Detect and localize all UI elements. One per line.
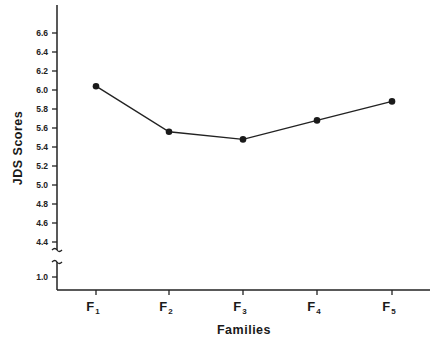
- y-tick-label: 6.2: [36, 66, 48, 76]
- y-tick-label: 5.8: [36, 104, 48, 114]
- y-tick-label: 4.8: [36, 199, 48, 209]
- y-ticks: 6.66.46.26.05.85.65.45.25.04.84.64.41.0: [36, 28, 57, 282]
- data-series: [93, 83, 396, 143]
- data-point: [240, 136, 247, 143]
- y-tick-label: 1.0: [36, 272, 48, 282]
- y-tick-label: 4.4: [36, 237, 48, 247]
- series-line: [96, 86, 392, 139]
- x-tick-label: F1: [86, 299, 100, 316]
- y-tick-label: 6.6: [36, 28, 48, 38]
- data-point: [314, 117, 321, 124]
- axis-break-mark: [52, 249, 62, 252]
- y-tick-label: 5.2: [36, 161, 48, 171]
- y-tick-label: 5.4: [36, 142, 48, 152]
- x-tick-label: F5: [382, 299, 396, 316]
- x-tick-label: F2: [159, 299, 173, 316]
- x-axis-title: Families: [217, 323, 271, 337]
- x-ticks: F1F2F3F4F5: [86, 290, 396, 316]
- x-tick-label: F3: [233, 299, 247, 316]
- data-point: [93, 83, 100, 90]
- data-point: [166, 129, 173, 136]
- y-tick-label: 6.0: [36, 85, 48, 95]
- data-point: [389, 98, 396, 105]
- line-chart: 6.66.46.26.05.85.65.45.25.04.84.64.41.0 …: [0, 0, 437, 344]
- y-tick-label: 5.6: [36, 123, 48, 133]
- y-tick-label: 5.0: [36, 180, 48, 190]
- y-tick-label: 6.4: [36, 47, 48, 57]
- y-tick-label: 4.6: [36, 218, 48, 228]
- x-tick-label: F4: [307, 299, 321, 316]
- y-axis-title: JDS Scores: [11, 111, 25, 185]
